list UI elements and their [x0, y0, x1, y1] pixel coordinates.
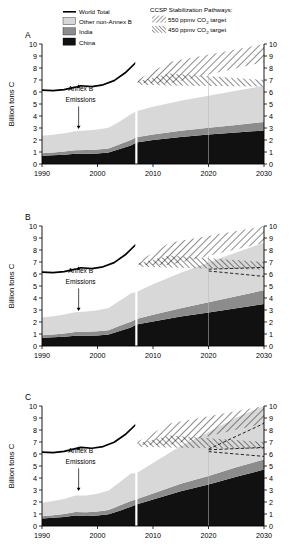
ytick-label-left-3: 3: [33, 306, 37, 315]
legend-label-india: India: [79, 28, 93, 35]
ytick-label-right-10: 10: [269, 40, 277, 49]
ytick-label-left-1: 1: [33, 330, 37, 339]
ytick-label-left-7: 7: [33, 438, 37, 447]
ytick-label-right-3: 3: [269, 486, 273, 495]
xtick-label-2030: 2030: [256, 351, 272, 360]
ytick-label-right-1: 1: [269, 330, 273, 339]
ytick-label-right-8: 8: [269, 426, 273, 435]
ytick-label-left-9: 9: [33, 414, 37, 423]
ytick-label-right-5: 5: [269, 100, 273, 109]
panel-label-b: B: [25, 212, 31, 222]
ytick-label-right-4: 4: [269, 474, 273, 483]
ytick-label-left-5: 5: [33, 282, 37, 291]
ytick-label-left-3: 3: [33, 486, 37, 495]
ytick-label-right-2: 2: [269, 136, 273, 145]
xtick-label-2020: 2020: [201, 169, 217, 178]
ytick-label-right-0: 0: [269, 522, 273, 531]
ytick-label-left-6: 6: [33, 270, 37, 279]
panel-a: ABillion tons CAnnex BEmissions001122334…: [7, 30, 277, 178]
xtick-label-2020: 2020: [201, 531, 217, 540]
ytick-label-right-0: 0: [269, 160, 273, 169]
legend-label-other-non-annex-b: Other non-Annex B: [79, 18, 132, 25]
ytick-label-right-4: 4: [269, 294, 273, 303]
xtick-label-2000: 2000: [90, 351, 106, 360]
chart-canvas: World TotalOther non-Annex BIndiaChinaCC…: [0, 0, 294, 549]
ytick-label-right-7: 7: [269, 258, 273, 267]
ytick-label-left-4: 4: [33, 112, 37, 121]
annex-b-annotation-line1: Annex B: [68, 85, 94, 92]
ytick-label-right-9: 9: [269, 414, 273, 423]
ytick-label-right-7: 7: [269, 438, 273, 447]
annex-b-annotation-line1: Annex B: [68, 267, 94, 274]
legend-swatch-china: [63, 38, 76, 45]
legend-label-target-450: 450 ppmv CO2 target: [168, 26, 226, 35]
ytick-label-right-3: 3: [269, 124, 273, 133]
ytick-label-left-4: 4: [33, 474, 37, 483]
ytick-label-right-9: 9: [269, 234, 273, 243]
ytick-label-right-2: 2: [269, 498, 273, 507]
ytick-label-left-2: 2: [33, 136, 37, 145]
ytick-label-left-10: 10: [29, 222, 37, 231]
xtick-label-2010: 2010: [145, 531, 161, 540]
legend-hatch-target-550: [152, 16, 166, 23]
ytick-label-left-9: 9: [33, 234, 37, 243]
xtick-label-2000: 2000: [90, 531, 106, 540]
xtick-label-2010: 2010: [145, 351, 161, 360]
ytick-label-right-6: 6: [269, 88, 273, 97]
legend-swatch-india: [63, 28, 76, 35]
annex-b-annotation-line1: Annex B: [68, 447, 94, 454]
ytick-label-left-6: 6: [33, 450, 37, 459]
annex-b-annotation-line2: Emissions: [66, 96, 97, 103]
ytick-label-left-9: 9: [33, 52, 37, 61]
legend: World TotalOther non-Annex BIndiaChinaCC…: [63, 6, 233, 46]
ytick-label-left-4: 4: [33, 294, 37, 303]
ytick-label-left-2: 2: [33, 318, 37, 327]
ytick-label-left-0: 0: [33, 522, 37, 531]
ytick-label-left-5: 5: [33, 462, 37, 471]
ytick-label-right-1: 1: [269, 148, 273, 157]
xtick-label-1990: 1990: [34, 351, 50, 360]
ytick-label-left-2: 2: [33, 498, 37, 507]
ytick-label-right-3: 3: [269, 306, 273, 315]
annex-b-arrow-down-head: [77, 308, 81, 311]
xtick-label-2020: 2020: [201, 351, 217, 360]
panel-c: CBillion tons CAnnex BEmissions001122334…: [7, 392, 277, 540]
panel-label-a: A: [25, 30, 31, 40]
legend-hatch-target-450: [152, 26, 166, 33]
ytick-label-left-10: 10: [29, 402, 37, 411]
ytick-label-right-5: 5: [269, 462, 273, 471]
ytick-label-left-8: 8: [33, 64, 37, 73]
panel-b: BBillion tons CAnnex BEmissions001122334…: [7, 212, 277, 360]
ytick-label-right-6: 6: [269, 270, 273, 279]
legend-swatch-other-non-annex-b: [63, 18, 76, 25]
ytick-label-right-6: 6: [269, 450, 273, 459]
legend-label-china: China: [79, 39, 96, 46]
ytick-label-right-4: 4: [269, 112, 273, 121]
annex-b-annotation-line2: Emissions: [66, 278, 97, 285]
ytick-label-left-1: 1: [33, 148, 37, 157]
xtick-label-2030: 2030: [256, 169, 272, 178]
ytick-label-right-8: 8: [269, 246, 273, 255]
ytick-label-right-10: 10: [269, 222, 277, 231]
ytick-label-right-7: 7: [269, 76, 273, 85]
y-axis-label-b: Billion tons C: [7, 263, 16, 308]
legend-label-world-total: World Total: [79, 8, 110, 15]
xtick-label-2010: 2010: [145, 169, 161, 178]
ytick-label-left-10: 10: [29, 40, 37, 49]
ytick-label-left-8: 8: [33, 246, 37, 255]
ytick-label-right-9: 9: [269, 52, 273, 61]
annex-b-annotation-line2: Emissions: [66, 458, 97, 465]
ytick-label-left-0: 0: [33, 160, 37, 169]
y-axis-label-c: Billion tons C: [7, 443, 16, 488]
ytick-label-left-6: 6: [33, 88, 37, 97]
ytick-label-left-3: 3: [33, 124, 37, 133]
panel-label-c: C: [25, 392, 31, 402]
y-axis-label-a: Billion tons C: [7, 81, 16, 126]
ytick-label-right-0: 0: [269, 342, 273, 351]
legend-pathways-title: CCSP Stabilization Pathways:: [150, 6, 233, 13]
xtick-label-1990: 1990: [34, 169, 50, 178]
ytick-label-left-5: 5: [33, 100, 37, 109]
xtick-label-1990: 1990: [34, 531, 50, 540]
ytick-label-left-1: 1: [33, 510, 37, 519]
annex-b-arrow-down-head: [77, 126, 81, 129]
